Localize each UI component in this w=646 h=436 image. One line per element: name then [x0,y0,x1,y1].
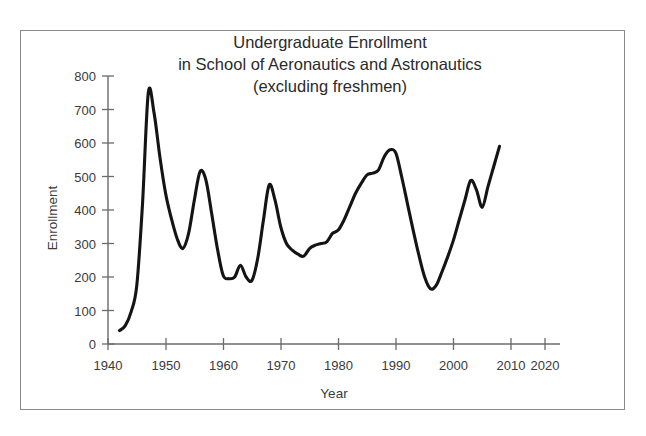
x-axis-tick-labels: 1940 1950 1960 1970 1980 1990 2000 2010 … [94,358,560,373]
x-tick-label-1960: 1960 [209,358,238,373]
chart-title-line-3: (excluding freshmen) [253,77,407,95]
y-tick-label-0: 0 [89,337,96,352]
y-tick-label-500: 500 [74,170,96,185]
x-tick-label-1940: 1940 [94,358,123,373]
x-tick-label-1980: 1980 [324,358,353,373]
y-axis-title: Enrollment [45,185,60,250]
y-tick-label-200: 200 [74,270,96,285]
chart-title: Undergraduate Enrollment in School of Ae… [178,33,482,95]
y-tick-label-800: 800 [74,69,96,84]
x-tick-label-2000: 2000 [439,358,468,373]
x-tick-label-1970: 1970 [267,358,296,373]
y-axis: 0 100 200 300 400 500 600 700 800 Enroll… [45,69,114,352]
x-tick-label-2010: 2010 [497,358,526,373]
y-tick-label-600: 600 [74,136,96,151]
y-tick-label-300: 300 [74,237,96,252]
x-tick-label-1950: 1950 [152,358,181,373]
chart-title-line-1: Undergraduate Enrollment [233,33,427,51]
x-axis: 1940 1950 1960 1970 1980 1990 2000 2010 … [94,338,560,401]
x-axis-title: Year [320,386,348,401]
x-tick-label-1990: 1990 [382,358,411,373]
y-tick-label-700: 700 [74,103,96,118]
chart-title-line-2: in School of Aeronautics and Astronautic… [178,55,482,73]
y-tick-label-400: 400 [74,203,96,218]
x-tick-label-2020: 2020 [531,358,560,373]
enrollment-line-chart: Undergraduate Enrollment in School of Ae… [0,0,646,436]
y-axis-tick-labels: 0 100 200 300 400 500 600 700 800 [74,69,96,352]
y-tick-label-100: 100 [74,304,96,319]
enrollment-data-line [120,88,500,331]
